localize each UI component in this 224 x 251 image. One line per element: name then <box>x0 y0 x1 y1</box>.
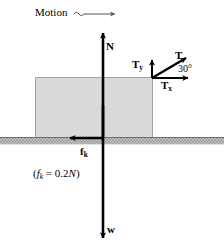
ground-surface <box>0 137 224 144</box>
motion-arrow <box>74 12 115 15</box>
tension-y-subscript: y <box>139 63 143 72</box>
tension-label: T <box>175 50 182 61</box>
tension-y-label: Ty <box>132 59 143 71</box>
friction-subscript: k <box>84 150 88 159</box>
tension-x-label: Tx <box>161 80 172 92</box>
angle-label: 30° <box>178 64 192 74</box>
friction-label: fk <box>80 146 88 158</box>
tension-x-subscript: x <box>168 84 172 93</box>
friction-equation: (fk = 0.2N) <box>33 168 80 180</box>
diagram-canvas <box>0 0 224 251</box>
free-body-diagram-figure: Motion N T Ty Tx 30° fk w (fk = 0.2N) <box>0 0 224 251</box>
motion-label: Motion <box>35 7 67 18</box>
equation-normal-symbol: N <box>69 167 76 179</box>
equation-body: = 0.2 <box>43 167 68 179</box>
weight-label: w <box>107 224 115 235</box>
normal-force-label: N <box>106 41 114 52</box>
block-body <box>36 78 153 138</box>
equation-close-paren: ) <box>76 167 80 179</box>
